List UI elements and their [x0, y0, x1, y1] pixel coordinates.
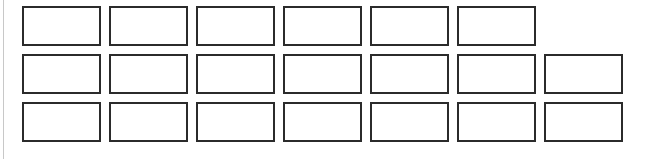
grid-cell[interactable] — [370, 102, 449, 142]
grid-cell[interactable] — [109, 6, 188, 46]
grid-cell[interactable] — [457, 54, 536, 94]
cell-grid — [22, 6, 632, 144]
grid-cell[interactable] — [22, 102, 101, 142]
placeholder-grid-screen — [0, 0, 664, 159]
grid-row — [22, 102, 632, 144]
grid-cell[interactable] — [283, 54, 362, 94]
grid-cell[interactable] — [544, 54, 623, 94]
grid-row — [22, 54, 632, 96]
grid-cell[interactable] — [22, 6, 101, 46]
grid-cell[interactable] — [283, 6, 362, 46]
grid-cell[interactable] — [22, 54, 101, 94]
grid-cell[interactable] — [283, 102, 362, 142]
grid-cell[interactable] — [370, 54, 449, 94]
grid-row — [22, 6, 632, 48]
grid-cell[interactable] — [196, 54, 275, 94]
grid-cell[interactable] — [109, 102, 188, 142]
grid-cell[interactable] — [109, 54, 188, 94]
grid-cell[interactable] — [457, 102, 536, 142]
left-margin-rule — [3, 0, 4, 159]
grid-cell[interactable] — [457, 6, 536, 46]
grid-cell[interactable] — [196, 6, 275, 46]
grid-cell[interactable] — [370, 6, 449, 46]
grid-cell[interactable] — [544, 102, 623, 142]
grid-cell[interactable] — [196, 102, 275, 142]
